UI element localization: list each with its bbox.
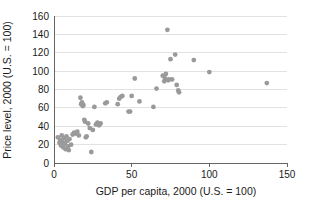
data-point bbox=[120, 94, 125, 99]
scatter-chart: 020406080100120140160 050100150 GDP per … bbox=[0, 0, 311, 202]
data-point bbox=[191, 58, 196, 63]
data-point bbox=[132, 76, 137, 81]
y-tick-label-160: 160 bbox=[32, 11, 49, 22]
y-tick-label-20: 20 bbox=[38, 139, 50, 150]
data-point bbox=[84, 134, 89, 139]
data-point bbox=[174, 83, 179, 88]
x-tick-label-0: 0 bbox=[51, 169, 57, 180]
data-point bbox=[76, 133, 81, 138]
tick-marks-group bbox=[54, 163, 287, 167]
y-tick-label-0: 0 bbox=[43, 158, 49, 169]
data-point bbox=[128, 109, 133, 114]
data-point bbox=[173, 52, 178, 57]
data-point bbox=[81, 103, 86, 108]
x-tick-label-50: 50 bbox=[126, 169, 138, 180]
data-point bbox=[89, 150, 94, 155]
x-axis-tick-labels: 050100150 bbox=[51, 169, 296, 180]
x-tick-label-150: 150 bbox=[279, 169, 296, 180]
y-tick-label-60: 60 bbox=[38, 102, 50, 113]
data-point bbox=[177, 90, 182, 95]
y-axis-tick-labels: 020406080100120140160 bbox=[32, 11, 49, 169]
y-axis-title: Price level, 2000 (U.S. = 100) bbox=[1, 21, 13, 158]
data-point bbox=[163, 71, 168, 76]
data-point bbox=[69, 142, 74, 147]
data-point bbox=[154, 86, 159, 91]
data-point bbox=[92, 105, 97, 110]
y-tick-label-80: 80 bbox=[38, 84, 50, 95]
data-point bbox=[78, 95, 83, 100]
data-point bbox=[66, 148, 71, 153]
y-tick-label-120: 120 bbox=[32, 47, 49, 58]
data-point bbox=[98, 121, 103, 126]
y-tick-label-100: 100 bbox=[32, 66, 49, 77]
x-axis-title: GDP per capita, 2000 (U.S. = 100) bbox=[96, 185, 257, 197]
data-point bbox=[151, 105, 156, 110]
data-point bbox=[170, 77, 175, 82]
chart-canvas: 020406080100120140160 050100150 GDP per … bbox=[0, 0, 311, 202]
data-points-group bbox=[55, 27, 269, 154]
y-tick-label-40: 40 bbox=[38, 121, 50, 132]
data-point bbox=[90, 128, 95, 133]
data-point bbox=[115, 102, 120, 107]
data-point bbox=[137, 99, 142, 104]
data-point bbox=[165, 27, 170, 32]
data-point bbox=[86, 121, 91, 126]
x-tick-label-100: 100 bbox=[201, 169, 218, 180]
data-point bbox=[168, 57, 173, 62]
data-point bbox=[264, 81, 269, 86]
data-point bbox=[104, 100, 109, 105]
data-point bbox=[67, 137, 72, 142]
data-point bbox=[129, 94, 134, 99]
data-point bbox=[207, 70, 212, 75]
y-tick-label-140: 140 bbox=[32, 29, 49, 40]
